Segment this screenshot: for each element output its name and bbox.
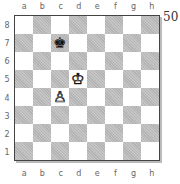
square-d1 — [69, 142, 87, 160]
rank-label: 6 — [2, 53, 12, 71]
square-a1 — [15, 142, 33, 160]
square-f3 — [105, 106, 123, 124]
file-label: h — [143, 169, 161, 179]
square-d8 — [69, 16, 87, 34]
square-c3 — [51, 106, 69, 124]
square-h4 — [141, 88, 159, 106]
rank-label: 7 — [2, 34, 12, 52]
white-pawn-icon: ♙ — [53, 90, 66, 105]
file-label: e — [88, 169, 106, 179]
square-b3 — [33, 106, 51, 124]
square-h7 — [141, 34, 159, 52]
square-b4 — [33, 88, 51, 106]
square-e8 — [87, 16, 105, 34]
square-a2 — [15, 124, 33, 142]
square-f6 — [105, 52, 123, 70]
square-g6 — [123, 52, 141, 70]
file-label: a — [15, 169, 33, 179]
square-h2 — [141, 124, 159, 142]
square-d5: ♔ — [69, 70, 87, 88]
square-f4 — [105, 88, 123, 106]
square-e5 — [87, 70, 105, 88]
square-g1 — [123, 142, 141, 160]
square-a4 — [15, 88, 33, 106]
square-g8 — [123, 16, 141, 34]
file-label: g — [125, 2, 143, 12]
file-label: d — [70, 2, 88, 12]
file-label: b — [33, 169, 51, 179]
square-d6 — [69, 52, 87, 70]
square-e7 — [87, 34, 105, 52]
square-c2 — [51, 124, 69, 142]
square-d3 — [69, 106, 87, 124]
white-king-icon: ♔ — [71, 72, 84, 87]
square-b6 — [33, 52, 51, 70]
rank-label: 1 — [2, 144, 12, 162]
square-h3 — [141, 106, 159, 124]
file-labels-top: a b c d e f g h — [15, 2, 161, 12]
square-e4 — [87, 88, 105, 106]
file-label: h — [143, 2, 161, 12]
square-b5 — [33, 70, 51, 88]
file-label: c — [52, 2, 70, 12]
square-f2 — [105, 124, 123, 142]
square-b7 — [33, 34, 51, 52]
square-c5 — [51, 70, 69, 88]
square-e1 — [87, 142, 105, 160]
file-label: f — [106, 2, 124, 12]
rank-labels: 8 7 6 5 4 3 2 1 — [2, 16, 12, 162]
square-c8 — [51, 16, 69, 34]
square-h8 — [141, 16, 159, 34]
square-f5 — [105, 70, 123, 88]
square-d7 — [69, 34, 87, 52]
square-a6 — [15, 52, 33, 70]
square-b2 — [33, 124, 51, 142]
square-e2 — [87, 124, 105, 142]
square-g3 — [123, 106, 141, 124]
square-b1 — [33, 142, 51, 160]
square-d2 — [69, 124, 87, 142]
file-label: g — [125, 169, 143, 179]
square-g7 — [123, 34, 141, 52]
file-label: d — [70, 169, 88, 179]
square-g4 — [123, 88, 141, 106]
file-labels-bottom: a b c d e f g h — [15, 169, 161, 179]
chess-board: ♚♔♙ — [14, 15, 160, 161]
square-h6 — [141, 52, 159, 70]
square-a3 — [15, 106, 33, 124]
square-e6 — [87, 52, 105, 70]
square-c1 — [51, 142, 69, 160]
square-c4: ♙ — [51, 88, 69, 106]
square-e3 — [87, 106, 105, 124]
file-label: e — [88, 2, 106, 12]
square-a5 — [15, 70, 33, 88]
rank-label: 5 — [2, 71, 12, 89]
square-c6 — [51, 52, 69, 70]
file-label: f — [106, 169, 124, 179]
square-a8 — [15, 16, 33, 34]
square-g2 — [123, 124, 141, 142]
diagram-number: 50 — [163, 10, 178, 24]
square-a7 — [15, 34, 33, 52]
rank-label: 4 — [2, 89, 12, 107]
rank-label: 3 — [2, 107, 12, 125]
square-h1 — [141, 142, 159, 160]
black-king-icon: ♚ — [53, 36, 66, 51]
rank-label: 2 — [2, 126, 12, 144]
square-f7 — [105, 34, 123, 52]
square-d4 — [69, 88, 87, 106]
square-f1 — [105, 142, 123, 160]
square-c7: ♚ — [51, 34, 69, 52]
file-label: a — [15, 2, 33, 12]
rank-label: 8 — [2, 16, 12, 34]
square-f8 — [105, 16, 123, 34]
square-g5 — [123, 70, 141, 88]
square-b8 — [33, 16, 51, 34]
square-h5 — [141, 70, 159, 88]
file-label: b — [33, 2, 51, 12]
file-label: c — [52, 169, 70, 179]
